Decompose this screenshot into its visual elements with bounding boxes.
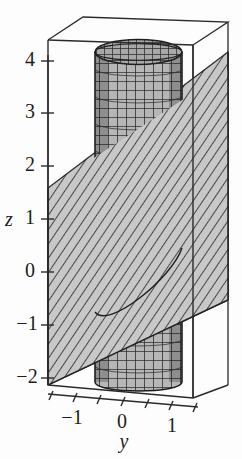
- z-tick-label: −1: [16, 312, 37, 334]
- z-axis-title: z: [4, 208, 13, 230]
- z-tick-label: 2: [25, 153, 35, 175]
- y-axis-title: y: [118, 430, 129, 453]
- y-tick-label: 0: [117, 410, 127, 432]
- figure-panel: 4 3 2 1 0 −1 −2 z −1 0 1 y: [0, 0, 242, 459]
- surface-plot-canvas: 4 3 2 1 0 −1 −2 z −1 0 1 y: [0, 0, 242, 459]
- z-tick-label: 1: [25, 206, 35, 228]
- y-axis: −1 0 1 y: [48, 391, 198, 453]
- z-tick-label: 3: [25, 100, 35, 122]
- z-axis: 4 3 2 1 0 −1 −2 z: [4, 48, 54, 387]
- z-tick-label: 4: [25, 48, 35, 70]
- y-tick-label: −1: [61, 406, 82, 428]
- z-tick-label: −2: [16, 365, 37, 387]
- z-tick-label: 0: [25, 259, 35, 281]
- y-tick-label: 1: [167, 414, 177, 436]
